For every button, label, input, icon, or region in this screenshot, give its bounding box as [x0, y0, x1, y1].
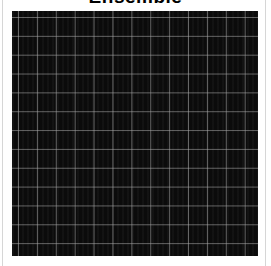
figure-title: Ensemble: [0, 0, 271, 6]
grid-image: [12, 11, 258, 256]
